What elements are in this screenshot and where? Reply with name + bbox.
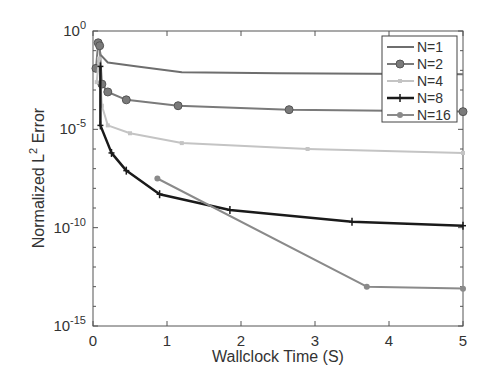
svg-text:N=4: N=4 (417, 73, 443, 89)
y-tick-label: 10-5 (60, 117, 86, 137)
x-tick-label: 5 (459, 332, 467, 349)
error-vs-time-chart: 10010-510-1010-15 012345 Wallclock Time … (0, 0, 490, 391)
x-tick-label: 0 (89, 332, 97, 349)
svg-text:N=16: N=16 (417, 107, 451, 123)
x-axis-label: Wallclock Time (S) (212, 348, 344, 365)
x-tick-label: 2 (237, 332, 245, 349)
y-tick-label: 100 (63, 19, 86, 39)
svg-text:N=8: N=8 (417, 90, 443, 106)
y-tick-label: 10-15 (53, 314, 86, 334)
x-tick-label: 1 (163, 332, 171, 349)
svg-text:N=2: N=2 (417, 56, 443, 72)
x-tick-label: 3 (311, 332, 319, 349)
y-tick-label: 10-10 (53, 216, 86, 236)
y-axis-label: Normalized L2 Error (27, 107, 47, 248)
x-tick-label: 4 (385, 332, 393, 349)
legend: N=1N=2N=4N=8N=16 (382, 36, 457, 123)
svg-text:N=1: N=1 (417, 39, 443, 55)
